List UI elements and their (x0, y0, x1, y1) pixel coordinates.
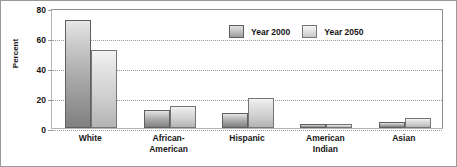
bar (248, 98, 274, 128)
x-axis-category-label: Asian (365, 133, 443, 144)
bar (379, 122, 405, 128)
bar-chart: Percent 020406080 WhiteAfrican-AmericanH… (0, 0, 457, 167)
x-axis-category-label-line: American (129, 144, 207, 155)
legend-swatch-icon-year-2050 (302, 25, 317, 38)
legend-entry-year-2050: Year 2050 (302, 25, 363, 38)
x-axis-category-label-line: American (286, 133, 364, 144)
bar-group (366, 10, 444, 128)
x-axis-category-label: Hispanic (208, 133, 286, 144)
x-axis-category-label-line: Indian (286, 144, 364, 155)
bar (91, 50, 117, 128)
x-axis-category-labels: WhiteAfrican-AmericanHispanicAmericanInd… (51, 133, 443, 167)
legend-label-year-2050: Year 2050 (324, 27, 363, 37)
bar (144, 110, 170, 128)
bar (326, 124, 352, 128)
bars (130, 10, 208, 128)
bars (366, 10, 444, 128)
legend-swatch-icon-year-2000 (229, 25, 244, 38)
y-axis-tickmark (48, 130, 52, 131)
bar-group (130, 10, 208, 128)
bars (52, 10, 130, 128)
x-axis-category-label-line: Asian (365, 133, 443, 144)
y-axis-tick-label: 40 (37, 65, 46, 75)
x-axis-category-label: African-American (129, 133, 207, 155)
x-axis-category-label-line: Hispanic (208, 133, 286, 144)
x-axis-category-label: AmericanIndian (286, 133, 364, 155)
x-axis-category-label-line: White (51, 133, 129, 144)
y-axis-tick-label: 0 (41, 125, 46, 135)
legend-entry-year-2000: Year 2000 (229, 25, 290, 38)
chart-legend: Year 2000 Year 2050 (229, 25, 363, 38)
x-axis-category-label: White (51, 133, 129, 144)
bar (170, 106, 196, 129)
y-axis-title: Percent (11, 14, 20, 94)
y-axis-tick-label: 20 (37, 95, 46, 105)
bar-group (52, 10, 130, 128)
y-axis-tick-label: 80 (37, 5, 46, 15)
bar (405, 118, 431, 129)
y-axis-tick-label: 60 (37, 35, 46, 45)
x-axis-category-label-line: African- (129, 133, 207, 144)
bar (65, 20, 91, 128)
bar (222, 113, 248, 128)
gridline (52, 130, 442, 131)
legend-label-year-2000: Year 2000 (251, 27, 290, 37)
bar (300, 124, 326, 128)
